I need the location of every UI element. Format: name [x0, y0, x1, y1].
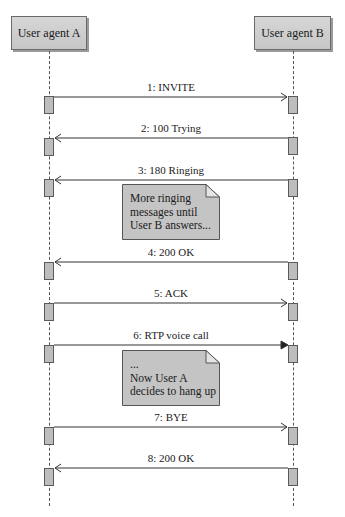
message-label-3: 3: 180 Ringing [138, 164, 204, 176]
note-more-ringing: More ringing messages until User B answe… [122, 184, 220, 240]
note-line: User B answers... [130, 219, 211, 233]
note-line: Now User A [130, 372, 216, 386]
message-label-7: 7: BYE [154, 411, 187, 423]
note-line: More ringing [130, 192, 211, 206]
message-label-8: 8: 200 OK [148, 452, 194, 464]
message-arrows [0, 0, 345, 517]
message-label-6: 6: RTP voice call [133, 329, 209, 341]
message-label-1: 1: INVITE [147, 81, 195, 93]
message-label-2: 2: 100 Trying [141, 122, 201, 134]
note-line: decides to hang up [130, 385, 216, 399]
note-line: messages until [130, 206, 211, 220]
note-hang-up: ... Now User A decides to hang up [122, 350, 220, 406]
message-label-5: 5: ACK [154, 287, 188, 299]
message-label-4: 4: 200 OK [148, 246, 194, 258]
note-line: ... [130, 358, 216, 372]
